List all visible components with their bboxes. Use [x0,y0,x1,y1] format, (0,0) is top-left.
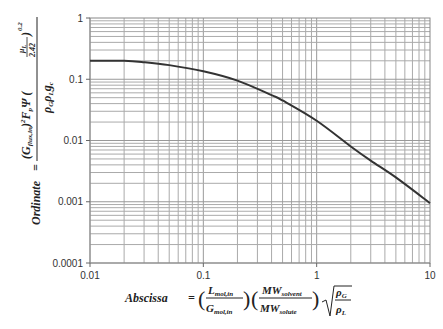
abscissa-formula: ( Lmol,in Gmol,in ) ( MWsolvent MWsolute… [198,284,352,317]
x-tick-label: 10 [424,270,436,281]
svg-text:Lmol,in: Lmol,in [207,284,233,298]
svg-text:MWsolute: MWsolute [259,302,297,316]
ordinate-word: Ordinate [29,180,43,225]
svg-text:(: ( [251,286,258,311]
y-tick-label: 0.1 [69,74,83,85]
svg-text:(Gflux,in)2FpΨ (: (Gflux,in)2FpΨ ( [19,90,34,159]
y-tick-label: 0.0001 [52,258,83,269]
x-tick-label: 0.1 [196,270,210,281]
svg-text:): ) [312,286,319,311]
y-tick-label: 0.001 [58,196,83,207]
log-log-chart: 0.010.111010.10.010.0010.0001 Abscissa =… [0,0,443,329]
svg-text:0.2: 0.2 [16,22,24,31]
svg-text:MWsolvent: MWsolvent [261,284,303,298]
ordinate-formula: (Gflux,in)2FpΨ ( μL 2.42 ) 0.2 ρGρLgc [16,17,55,161]
svg-text:ρG: ρG [335,286,347,300]
abscissa-equals: = [188,291,195,305]
x-tick-label: 1 [314,270,320,281]
svg-text:(: ( [198,286,205,311]
x-tick-label: 0.01 [80,270,100,281]
abscissa-word: Abscissa [124,291,168,305]
svg-text:ρGρLgc: ρGρLgc [40,82,55,114]
y-tick-label: 1 [77,13,83,24]
ordinate-equals: = [29,164,43,171]
grid-lines [90,18,430,263]
y-tick-label: 0.01 [64,135,84,146]
y-axis-label: Ordinate = (Gflux,in)2FpΨ ( μL 2.42 ) 0.… [16,17,55,225]
svg-text:): ) [243,286,250,311]
x-axis-label: Abscissa = ( Lmol,in Gmol,in ) ( MWsolve… [124,284,352,317]
svg-text:2.42: 2.42 [28,43,37,58]
svg-text:ρL: ρL [335,303,346,317]
svg-text:): ) [19,32,33,37]
svg-text:Gmol,in: Gmol,in [206,302,233,316]
svg-text:μL: μL [17,45,27,54]
